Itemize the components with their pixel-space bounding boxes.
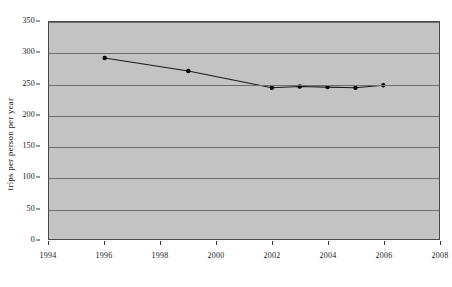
data-point-2002 [270, 86, 274, 90]
x-tick-label-1994: 1994 [40, 252, 57, 260]
x-tick-label-2004: 2004 [320, 252, 337, 260]
y-tick-mark-300 [36, 52, 40, 53]
gridline-y-200 [49, 116, 439, 117]
x-tick-label-2008: 2008 [432, 252, 449, 260]
x-tick-mark-1994 [48, 241, 49, 245]
y-tick-label-100: 100 [22, 173, 35, 181]
x-tick-mark-1998 [160, 241, 161, 245]
gridline-y-300 [49, 53, 439, 54]
x-tick-label-2000: 2000 [208, 252, 225, 260]
x-tick-label-2002: 2002 [264, 252, 281, 260]
x-tick-label-1996: 1996 [96, 252, 113, 260]
series-line-trips [105, 58, 384, 88]
x-tick-mark-2006 [384, 241, 385, 245]
line-chart-figure: trips per person per year 05010015020025… [0, 0, 452, 287]
series-layer [49, 22, 439, 239]
y-tick-mark-350 [36, 21, 40, 22]
data-point-2005 [353, 86, 357, 90]
data-point-1999 [186, 69, 190, 73]
gridline-y-50 [49, 210, 439, 211]
data-point-2004 [325, 85, 329, 89]
y-tick-label-300: 300 [22, 48, 35, 56]
x-tick-label-2006: 2006 [376, 252, 393, 260]
x-tick-mark-2004 [328, 241, 329, 245]
x-tick-label-1998: 1998 [152, 252, 169, 260]
x-tick-mark-1996 [104, 241, 105, 245]
y-tick-mark-150 [36, 146, 40, 147]
y-tick-mark-50 [36, 208, 40, 209]
y-tick-label-50: 50 [27, 205, 35, 213]
x-tick-mark-2000 [216, 241, 217, 245]
gridline-y-150 [49, 147, 439, 148]
y-tick-label-200: 200 [22, 111, 35, 119]
y-tick-label-350: 350 [22, 17, 35, 25]
x-tick-mark-2002 [272, 241, 273, 245]
y-tick-label-250: 250 [22, 80, 35, 88]
y-tick-mark-200 [36, 114, 40, 115]
y-tick-mark-100 [36, 177, 40, 178]
x-tick-mark-2008 [440, 241, 441, 245]
gridline-y-350 [49, 22, 439, 23]
data-point-1996 [103, 56, 107, 60]
plot-area [48, 21, 440, 240]
gridline-y-100 [49, 178, 439, 179]
gridline-y-250 [49, 85, 439, 86]
y-tick-label-150: 150 [22, 142, 35, 150]
x-axis: 19941996199820002002200420062008 [0, 240, 452, 270]
y-tick-mark-250 [36, 83, 40, 84]
